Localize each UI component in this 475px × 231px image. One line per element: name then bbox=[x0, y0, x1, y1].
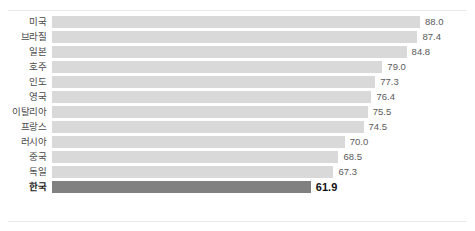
bar-row: 영국76.4 bbox=[0, 89, 475, 104]
bar bbox=[52, 16, 420, 28]
bar-value-label: 77.3 bbox=[375, 76, 399, 88]
bar bbox=[52, 121, 364, 133]
bar-track: 74.5 bbox=[52, 121, 475, 133]
bar bbox=[52, 151, 338, 163]
bar-track: 79.0 bbox=[52, 61, 475, 73]
bar-track: 67.3 bbox=[52, 166, 475, 178]
bar-value-label: 87.4 bbox=[417, 31, 441, 43]
bar-value-label: 79.0 bbox=[382, 61, 406, 73]
bar-chart: 미국88.0브라질87.4일본84.8호주79.0인도77.3영국76.4이탈리… bbox=[0, 0, 475, 231]
bar-value-label: 74.5 bbox=[364, 121, 388, 133]
bar-row-label: 프랑스 bbox=[0, 121, 52, 133]
bar-value-label: 75.5 bbox=[368, 106, 392, 118]
bar-value-label: 76.4 bbox=[371, 91, 395, 103]
bar-value-label: 61.9 bbox=[311, 181, 337, 193]
bar-track: 77.3 bbox=[52, 76, 475, 88]
bar-row-label: 일본 bbox=[0, 46, 52, 58]
bar-value-label: 88.0 bbox=[420, 16, 444, 28]
bar-row: 중국68.5 bbox=[0, 149, 475, 164]
bar bbox=[52, 76, 375, 88]
bar-track: 76.4 bbox=[52, 91, 475, 103]
bar-row: 독일67.3 bbox=[0, 164, 475, 179]
bar-value-label: 67.3 bbox=[333, 166, 357, 178]
bar-track: 87.4 bbox=[52, 31, 475, 43]
bar-row-label: 인도 bbox=[0, 76, 52, 88]
top-divider bbox=[8, 10, 467, 11]
bar-row: 브라질87.4 bbox=[0, 29, 475, 44]
bar bbox=[52, 136, 345, 148]
bar-row: 러시아70.0 bbox=[0, 134, 475, 149]
bar-row: 이탈리아75.5 bbox=[0, 104, 475, 119]
bar-row-label: 영국 bbox=[0, 91, 52, 103]
bar-row-label: 호주 bbox=[0, 61, 52, 73]
bar bbox=[52, 31, 417, 43]
bar-track: 88.0 bbox=[52, 16, 475, 28]
bar-value-label: 84.8 bbox=[407, 46, 431, 58]
bar-row-label: 브라질 bbox=[0, 31, 52, 43]
bar-value-label: 68.5 bbox=[338, 151, 362, 163]
bar bbox=[52, 46, 407, 58]
bar-row: 호주79.0 bbox=[0, 59, 475, 74]
bar-row: 한국61.9 bbox=[0, 179, 475, 194]
bar-row: 일본84.8 bbox=[0, 44, 475, 59]
bar-row-label: 중국 bbox=[0, 151, 52, 163]
bar bbox=[52, 61, 382, 73]
bar-row: 인도77.3 bbox=[0, 74, 475, 89]
bar-track: 61.9 bbox=[52, 181, 475, 193]
bar-value-label: 70.0 bbox=[345, 136, 369, 148]
bar bbox=[52, 181, 311, 193]
bar-track: 75.5 bbox=[52, 106, 475, 118]
bar-chart-rows: 미국88.0브라질87.4일본84.8호주79.0인도77.3영국76.4이탈리… bbox=[0, 14, 475, 194]
bar bbox=[52, 106, 368, 118]
bar-row-label: 독일 bbox=[0, 166, 52, 178]
bottom-divider bbox=[8, 221, 467, 222]
bar-row: 미국88.0 bbox=[0, 14, 475, 29]
bar-row: 프랑스74.5 bbox=[0, 119, 475, 134]
bar-row-label: 한국 bbox=[0, 181, 52, 193]
bar-row-label: 러시아 bbox=[0, 136, 52, 148]
bar-row-label: 미국 bbox=[0, 16, 52, 28]
bar bbox=[52, 91, 371, 103]
bar-track: 70.0 bbox=[52, 136, 475, 148]
bar-row-label: 이탈리아 bbox=[0, 106, 52, 118]
bar bbox=[52, 166, 333, 178]
bar-track: 84.8 bbox=[52, 46, 475, 58]
bar-track: 68.5 bbox=[52, 151, 475, 163]
